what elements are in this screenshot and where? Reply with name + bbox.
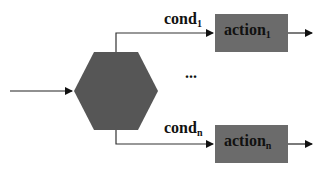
cond-n-subscript: n [197,127,203,138]
cond-n-label: condn [164,119,202,138]
cond-n-text: cond [164,119,197,136]
action-1-text: action [224,21,266,38]
cond-1-label: cond1 [164,10,202,29]
action-n-label: actionn [224,132,271,151]
action-1-subscript: 1 [266,29,271,40]
ellipsis: ... [185,64,197,82]
branch-1-connector [116,33,213,52]
action-1-label: action1 [224,21,271,40]
action-n-text: action [224,132,266,149]
action-n-subscript: n [266,140,272,151]
diagram-canvas [0,0,324,169]
cond-1-text: cond [164,10,197,27]
decision-hexagon [74,52,158,130]
cond-1-subscript: 1 [197,18,202,29]
